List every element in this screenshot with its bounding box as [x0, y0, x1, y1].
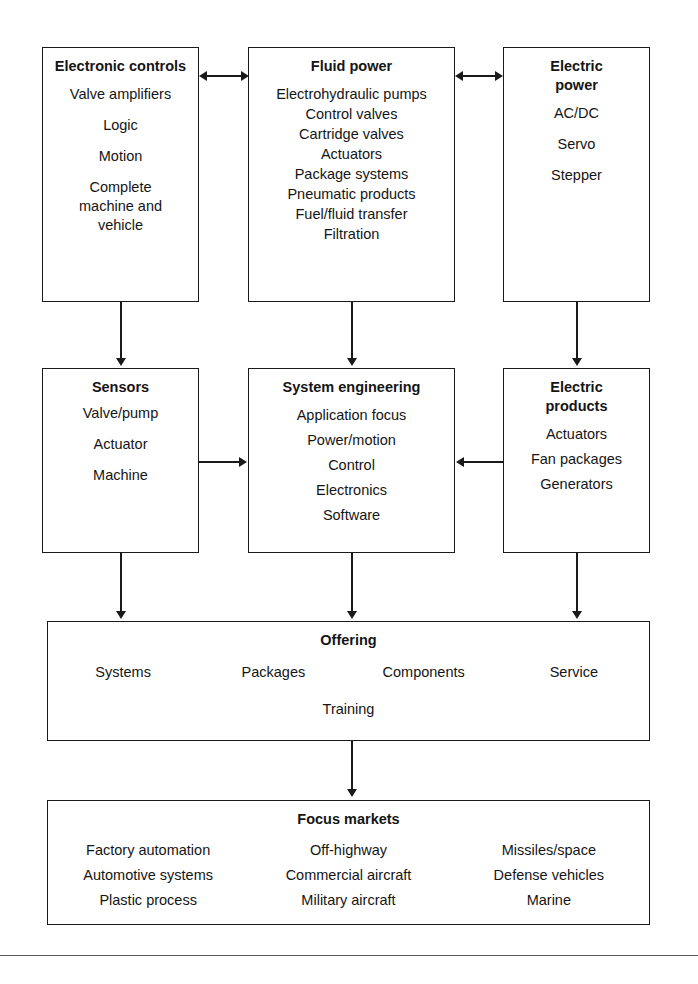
- connector-sensors-offering-line: [120, 553, 122, 613]
- clipped-title-text: [28, 0, 428, 12]
- focus-markets-column: Off-highway Commercial aircraft Military…: [248, 838, 448, 913]
- focus-market-item: Factory automation: [48, 838, 248, 863]
- connector-fp-se-arrow: [347, 358, 357, 366]
- connector-ec-fp-arrow-right: [241, 71, 249, 81]
- focus-market-item: Plastic process: [48, 888, 248, 913]
- offering-item: Service: [499, 664, 649, 680]
- box-item: Filtration: [249, 225, 454, 244]
- focus-market-item: Automotive systems: [48, 863, 248, 888]
- box-item: Electronics: [249, 481, 454, 500]
- box-item: Control valves: [249, 105, 454, 124]
- focus-market-item: Military aircraft: [248, 888, 448, 913]
- box-item: Power/motion: [249, 431, 454, 450]
- box-system-engineering[interactable]: System engineering Application focus Pow…: [248, 368, 455, 553]
- connector-ec-fp-line: [206, 75, 242, 77]
- box-item: Cartridge valves: [249, 125, 454, 144]
- connector-eprod-offering-line: [576, 553, 578, 613]
- page-footer-rule: [0, 955, 698, 956]
- box-item: Package systems: [249, 165, 454, 184]
- box-fluid-power[interactable]: Fluid power Electrohydraulic pumps Contr…: [248, 47, 455, 302]
- box-item: Software: [249, 506, 454, 525]
- connector-sensors-se-arrow: [239, 457, 247, 467]
- box-item: Stepper: [504, 166, 649, 185]
- connector-ec-sensors-line: [120, 302, 122, 360]
- box-item: AC/DC: [504, 104, 649, 123]
- focus-markets-column: Factory automation Automotive systems Pl…: [48, 838, 248, 913]
- box-item: Valve amplifiers: [43, 85, 198, 104]
- box-heading: Fluid power: [249, 57, 454, 76]
- offering-item: Packages: [198, 664, 348, 680]
- box-electric-power[interactable]: Electric power AC/DC Servo Stepper: [503, 47, 650, 302]
- connector-sensors-offering-arrow: [116, 611, 126, 619]
- box-item: Electrohydraulic pumps: [249, 85, 454, 104]
- box-item: Complete machine and vehicle: [43, 178, 198, 235]
- box-item: Logic: [43, 116, 198, 135]
- box-heading: Focus markets: [48, 811, 649, 827]
- connector-se-offering-arrow: [347, 611, 357, 619]
- box-sensors[interactable]: Sensors Valve/pump Actuator Machine: [42, 368, 199, 553]
- focus-market-item: Missiles/space: [449, 838, 649, 863]
- offering-item-training: Training: [48, 701, 649, 717]
- focus-markets-columns: Factory automation Automotive systems Pl…: [48, 838, 649, 913]
- box-item: Generators: [504, 475, 649, 494]
- connector-fp-ep-line: [462, 75, 496, 77]
- box-heading: Electric products: [504, 378, 649, 416]
- box-item: Fuel/fluid transfer: [249, 205, 454, 224]
- connector-ec-sensors-arrow: [116, 358, 126, 366]
- focus-market-item: Defense vehicles: [449, 863, 649, 888]
- connector-sensors-se-line: [199, 461, 241, 463]
- box-item: Control: [249, 456, 454, 475]
- box-item: Fan packages: [504, 450, 649, 469]
- connector-ec-fp-arrow-left: [199, 71, 207, 81]
- focus-markets-column: Missiles/space Defense vehicles Marine: [449, 838, 649, 913]
- box-heading: Electronic controls: [43, 57, 198, 76]
- connector-eprod-offering-arrow: [572, 611, 582, 619]
- connector-eprod-se-arrow: [456, 457, 464, 467]
- box-electric-products[interactable]: Electric products Actuators Fan packages…: [503, 368, 650, 553]
- box-focus-markets[interactable]: Focus markets Factory automation Automot…: [47, 800, 650, 925]
- box-heading: System engineering: [249, 378, 454, 397]
- offering-row: Systems Packages Components Service: [48, 664, 649, 680]
- box-item: Pneumatic products: [249, 185, 454, 204]
- offering-item: Systems: [48, 664, 198, 680]
- connector-se-offering-line: [351, 553, 353, 613]
- box-heading: Offering: [48, 632, 649, 648]
- focus-market-item: Commercial aircraft: [248, 863, 448, 888]
- connector-fp-se-line: [351, 302, 353, 360]
- box-item: Machine: [43, 466, 198, 485]
- focus-market-item: Marine: [449, 888, 649, 913]
- box-offering[interactable]: Offering Systems Packages Components Ser…: [47, 621, 650, 741]
- connector-offering-fm-arrow: [347, 789, 357, 797]
- connector-fp-ep-arrow-left: [455, 71, 463, 81]
- box-item: Valve/pump: [43, 404, 198, 423]
- box-item: Actuators: [249, 145, 454, 164]
- box-heading: Sensors: [43, 378, 198, 397]
- connector-ep-eprod-line: [576, 302, 578, 360]
- connector-fp-ep-arrow-right: [495, 71, 503, 81]
- box-electronic-controls[interactable]: Electronic controls Valve amplifiers Log…: [42, 47, 199, 302]
- diagram-canvas: Electronic controls Valve amplifiers Log…: [0, 0, 698, 984]
- box-item: Application focus: [249, 406, 454, 425]
- connector-ep-eprod-arrow: [572, 358, 582, 366]
- focus-market-item: Off-highway: [248, 838, 448, 863]
- box-item: Motion: [43, 147, 198, 166]
- box-item: Actuators: [504, 425, 649, 444]
- connector-offering-fm-line: [351, 741, 353, 791]
- connector-eprod-se-line: [463, 461, 504, 463]
- box-item: Actuator: [43, 435, 198, 454]
- offering-item: Components: [349, 664, 499, 680]
- box-heading: Electric power: [504, 57, 649, 95]
- box-item: Servo: [504, 135, 649, 154]
